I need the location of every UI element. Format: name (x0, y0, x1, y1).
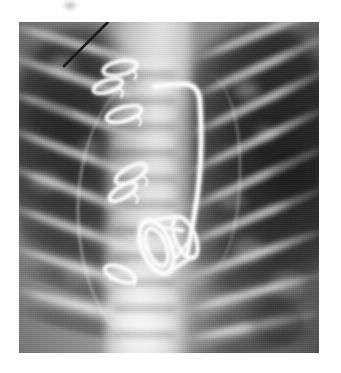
ink-smudge-above-plate (64, 2, 76, 9)
chest-radiograph-plate (19, 22, 319, 353)
ink-pointer-line (64, 22, 108, 66)
annotation-layer (19, 22, 319, 353)
radiograph-page (0, 0, 341, 373)
